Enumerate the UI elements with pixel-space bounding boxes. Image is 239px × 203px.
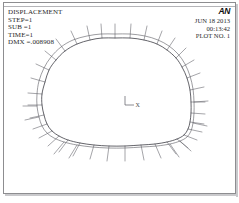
rock-bolt-line (182, 60, 194, 67)
stamp-time: 00:13:42 (195, 25, 230, 33)
rock-bolt-line (188, 129, 202, 132)
rock-bolt-line (144, 26, 147, 40)
rock-bolt-line (33, 124, 47, 129)
rock-bolt-line (71, 31, 77, 44)
rock-bolt-line (31, 78, 45, 82)
stamp-plot-no: PLOT NO. 1 (195, 32, 230, 40)
rock-bolt-line (130, 24, 131, 38)
rock-bolt-line (157, 31, 162, 44)
rock-bolt-line (28, 93, 42, 94)
rock-bolt-line (176, 48, 186, 58)
axis-triad-arms (125, 96, 134, 105)
rock-bolt-line (191, 113, 205, 114)
rock-bolt-line (190, 87, 204, 90)
undeformed-outline (37, 34, 194, 148)
rock-bolt-line (101, 24, 102, 38)
result-legend: DISPLACEMENT STEP=1 SUB =1 TIME=1 DMX =.… (8, 9, 62, 47)
rock-bolt-line (180, 141, 191, 151)
plot-frame-shadow-bottom (5, 194, 238, 196)
rock-bolt-line (87, 26, 90, 40)
axis-x-label: X (136, 102, 141, 108)
ansys-plot-window: ANSYS deformed-shape plot of a horseshoe… (0, 0, 239, 203)
plot-stamp: AN JUN 18 2013 00:13:42 PLOT NO. 1 (195, 8, 230, 40)
rock-bolt-line (170, 144, 179, 157)
legend-dmx: DMX =.008908 (8, 39, 62, 47)
rock-bolt-line (167, 38, 175, 50)
stamp-date: JUN 18 2013 (195, 17, 230, 25)
rock-bolt-line (36, 64, 49, 70)
deformed-outline (42, 38, 191, 146)
ansys-logo-icon: AN (195, 8, 230, 16)
rock-bolt-line (39, 131, 52, 138)
rock-bolt-line (45, 51, 56, 60)
plot-frame-shadow-right (236, 4, 238, 197)
axis-triad: X (125, 96, 141, 108)
